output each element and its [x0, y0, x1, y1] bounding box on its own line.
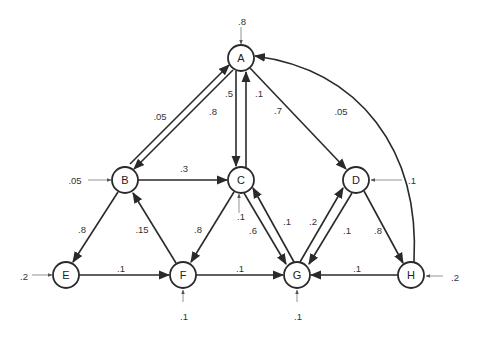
weight-c-f: .8: [194, 224, 202, 235]
weight-d-g: .1: [343, 225, 351, 236]
node-f: F: [170, 262, 196, 288]
ext-weight-b: .05: [68, 175, 81, 186]
weight-c-a: .1: [255, 88, 263, 99]
ext-weight-a: .8: [238, 16, 246, 27]
nodes: A B C D E F G H: [53, 45, 424, 288]
node-a: A: [228, 45, 254, 71]
edge-g-d: [300, 188, 343, 262]
node-c: C: [228, 167, 254, 193]
svg-text:H: H: [407, 269, 415, 281]
node-e: E: [53, 262, 79, 288]
svg-text:C: C: [237, 174, 245, 186]
ext-weight-c: .1: [237, 211, 245, 222]
svg-text:G: G: [293, 269, 302, 281]
ext-weight-e: .2: [20, 271, 28, 282]
weight-h-a: .05: [334, 106, 347, 117]
svg-text:F: F: [180, 269, 187, 281]
svg-text:E: E: [62, 269, 69, 281]
weight-b-a: .05: [153, 111, 166, 122]
ext-weight-f: .1: [180, 311, 188, 322]
weight-h-g: .1: [353, 263, 361, 274]
node-b: B: [112, 167, 138, 193]
weight-g-c: .1: [283, 216, 291, 227]
edge-d-h: [364, 191, 403, 263]
edge-a-d: [250, 68, 346, 169]
node-d: D: [343, 167, 369, 193]
weight-d-h: .8: [374, 225, 382, 236]
weight-f-b: .15: [135, 224, 148, 235]
weight-b-e: .8: [78, 224, 86, 235]
weight-a-d: .7: [274, 105, 282, 116]
svg-text:B: B: [121, 174, 128, 186]
weight-c-g: .6: [249, 225, 257, 236]
weight-f-g: .1: [236, 263, 244, 274]
graph-canvas: .05 .8 .5 .1 .7 .05 .3 .8 .15 .8 .6 .1 .…: [0, 0, 482, 337]
svg-text:D: D: [352, 174, 360, 186]
node-g: G: [284, 262, 310, 288]
ext-weight-h: .2: [451, 272, 459, 283]
node-h: H: [398, 262, 424, 288]
edge-h-a: [255, 56, 414, 262]
weight-b-c: .3: [180, 163, 188, 174]
weight-e-f: .1: [117, 263, 125, 274]
ext-weight-d: .1: [408, 175, 416, 186]
weight-a-c: .5: [225, 88, 233, 99]
weight-g-d: .2: [309, 216, 317, 227]
edges: [73, 56, 414, 275]
edge-a-b: [134, 70, 233, 169]
svg-text:A: A: [237, 52, 245, 64]
weight-a-b: .8: [209, 106, 217, 117]
ext-weight-g: .1: [294, 311, 302, 322]
